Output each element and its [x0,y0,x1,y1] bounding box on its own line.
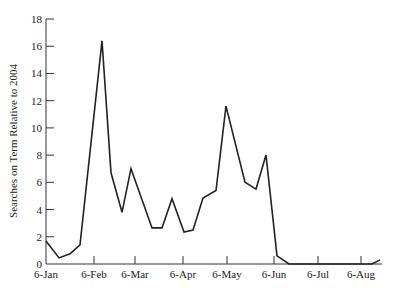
x-tick-label: 6-May [212,268,242,280]
series-line [46,41,380,264]
y-axis: 024681012141618 [31,13,54,270]
x-tick-label: 6-Apr [170,268,197,280]
y-tick-label: 4 [37,204,43,216]
y-tick-label: 12 [31,95,42,107]
y-tick-label: 6 [37,176,43,188]
x-tick-label: 6-Jun [262,268,287,280]
y-tick-label: 10 [31,122,43,134]
x-tick-label: 6-Aug [347,268,376,280]
x-tick-label: 6-Feb [81,268,107,280]
x-axis: 6-Jan6-Feb6-Mar6-Apr6-May6-Jun6-Jul6-Aug [34,256,382,280]
y-tick-label: 8 [37,149,43,161]
x-tick-label: 6-Mar [121,268,149,280]
y-tick-label: 2 [37,231,43,243]
x-tick-label: 6-Jan [34,268,58,280]
y-tick-label: 18 [31,13,43,25]
x-tick-label: 6-Jul [307,268,329,280]
y-axis-title: Searches on Term Relative to 2004 [7,64,19,218]
y-tick-label: 16 [31,40,43,52]
line-chart: 024681012141618 6-Jan6-Feb6-Mar6-Apr6-Ma… [0,0,400,293]
y-tick-label: 14 [31,67,43,79]
